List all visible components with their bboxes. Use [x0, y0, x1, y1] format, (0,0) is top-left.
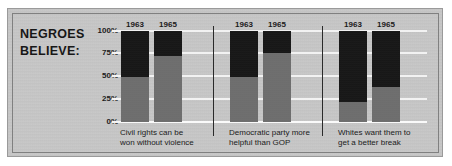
y-tick-50: 50% [84, 72, 118, 80]
y-tick-0: 0% [84, 118, 118, 126]
y-tick-100: 100% [84, 27, 118, 35]
y-axis-labels: 100% 75% 50% 25% 0% [84, 0, 118, 166]
y-tick-75: 75% [84, 49, 118, 57]
y-tick-25: 25% [84, 95, 118, 103]
chart-figure: NEGROES BELIEVE: 100% 75% 50% 25% 0% 196… [0, 0, 452, 166]
